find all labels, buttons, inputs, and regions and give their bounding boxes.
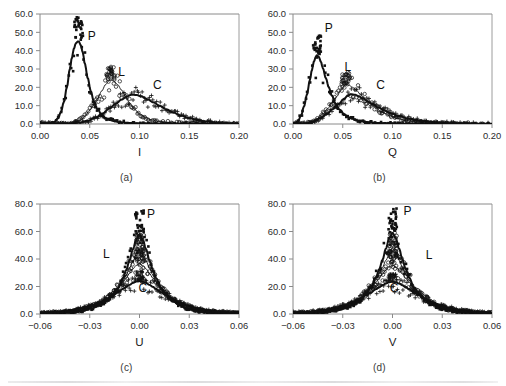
- x-tick-label: −0.03: [78, 320, 102, 331]
- x-axis-ticks: −0.06−0.030.000.030.06: [281, 314, 501, 331]
- y-tick-label: 20.0: [15, 281, 33, 292]
- x-axis-ticks: −0.06−0.030.000.030.06: [28, 314, 248, 331]
- x-tick-label: 0.00: [31, 130, 49, 141]
- curve-label-l: L: [118, 65, 125, 79]
- y-tick-label: 10.0: [268, 100, 286, 111]
- panel-plot-b: 0.010.020.030.040.050.060.00.000.050.100…: [253, 0, 506, 170]
- y-tick-label: 60.0: [15, 226, 33, 237]
- panel-b: 0.010.020.030.040.050.060.00.000.050.100…: [253, 0, 506, 170]
- y-tick-label: 0.0: [20, 118, 33, 129]
- panel-caption-c: (c): [0, 362, 253, 373]
- panel-c: 0.020.040.060.080.0−0.06−0.030.000.030.0…: [0, 190, 253, 360]
- y-tick-label: 10.0: [15, 100, 33, 111]
- panel-plot-a: 0.010.020.030.040.050.060.00.000.050.100…: [0, 0, 253, 170]
- y-tick-label: 0.0: [273, 118, 286, 129]
- figure-container: 0.010.020.030.040.050.060.00.000.050.100…: [0, 0, 506, 386]
- x-tick-label: −0.06: [281, 320, 305, 331]
- y-tick-label: 40.0: [15, 45, 33, 56]
- curve-label-c: C: [376, 78, 385, 92]
- x-tick-label: 0.15: [180, 130, 198, 141]
- page-edge-smudge: [0, 378, 506, 386]
- y-tick-label: 80.0: [268, 198, 286, 209]
- x-tick-label: 0.20: [230, 130, 248, 141]
- x-tick-label: 0.00: [383, 320, 401, 331]
- x-tick-label: 0.20: [483, 130, 501, 141]
- y-tick-label: 0.0: [273, 308, 286, 319]
- y-tick-label: 30.0: [15, 63, 33, 74]
- curve-label-p: P: [403, 204, 411, 218]
- curve-label-c: C: [153, 78, 162, 92]
- y-tick-label: 30.0: [268, 63, 286, 74]
- x-tick-label: 0.00: [284, 130, 302, 141]
- panel-caption-a: (a): [0, 172, 253, 183]
- y-tick-label: 50.0: [15, 27, 33, 38]
- x-tick-label: 0.05: [81, 130, 99, 141]
- y-tick-label: 20.0: [15, 82, 33, 93]
- y-tick-label: 50.0: [268, 27, 286, 38]
- y-axis-ticks: 0.020.040.060.080.0: [268, 198, 293, 319]
- x-tick-label: 0.06: [483, 320, 501, 331]
- panel-caption-b: (b): [253, 172, 506, 183]
- curve-label-l: L: [103, 247, 110, 261]
- x-axis-label: Q: [388, 146, 397, 158]
- x-tick-label: 0.06: [230, 320, 248, 331]
- y-tick-label: 60.0: [15, 8, 33, 19]
- x-tick-label: −0.03: [331, 320, 355, 331]
- x-tick-label: −0.06: [28, 320, 52, 331]
- y-axis-ticks: 0.010.020.030.040.050.060.0: [15, 8, 40, 129]
- y-tick-label: 20.0: [268, 281, 286, 292]
- y-tick-label: 20.0: [268, 82, 286, 93]
- panel-caption-d: (d): [253, 362, 506, 373]
- panel-d: 0.020.040.060.080.0−0.06−0.030.000.030.0…: [253, 190, 506, 360]
- panel-plot-c: 0.020.040.060.080.0−0.06−0.030.000.030.0…: [0, 190, 253, 360]
- curve-label-c: C: [138, 281, 147, 295]
- x-axis-label: I: [138, 146, 141, 158]
- curve-label-p: P: [147, 207, 155, 221]
- curve-label-c: C: [390, 281, 399, 295]
- y-tick-label: 60.0: [268, 226, 286, 237]
- curve-label-p: P: [88, 29, 96, 43]
- x-axis-label: U: [135, 336, 143, 348]
- x-tick-label: 0.00: [130, 320, 148, 331]
- panel-plot-d: 0.020.040.060.080.0−0.06−0.030.000.030.0…: [253, 190, 506, 360]
- x-tick-label: 0.05: [334, 130, 352, 141]
- y-tick-label: 40.0: [268, 253, 286, 264]
- x-axis-ticks: 0.000.050.100.150.20: [284, 124, 501, 141]
- x-tick-label: 0.10: [383, 130, 401, 141]
- y-tick-label: 80.0: [15, 198, 33, 209]
- y-axis-ticks: 0.020.040.060.080.0: [15, 198, 40, 319]
- x-tick-label: 0.03: [433, 320, 451, 331]
- x-tick-label: 0.10: [130, 130, 148, 141]
- curve-label-l: L: [426, 248, 433, 262]
- x-tick-label: 0.15: [433, 130, 451, 141]
- x-axis-label: V: [389, 336, 397, 348]
- curve-label-p: P: [325, 21, 333, 35]
- y-tick-label: 40.0: [268, 45, 286, 56]
- y-tick-label: 60.0: [268, 8, 286, 19]
- x-tick-label: 0.03: [180, 320, 198, 331]
- smudge-line: [8, 381, 498, 383]
- y-tick-label: 0.0: [20, 308, 33, 319]
- curve-label-l: L: [344, 60, 351, 74]
- y-axis-ticks: 0.010.020.030.040.050.060.0: [268, 8, 293, 129]
- panel-a: 0.010.020.030.040.050.060.00.000.050.100…: [0, 0, 253, 170]
- x-axis-ticks: 0.000.050.100.150.20: [31, 124, 248, 141]
- y-tick-label: 40.0: [15, 253, 33, 264]
